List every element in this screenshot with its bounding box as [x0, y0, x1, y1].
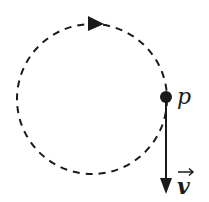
- direction-arrowhead-icon: [88, 16, 104, 31]
- velocity-arrowhead-icon: [160, 178, 172, 194]
- point-p-dot: [160, 91, 172, 103]
- velocity-label: v: [177, 173, 190, 199]
- circular-path: [17, 24, 167, 174]
- point-label: p: [177, 84, 191, 109]
- circular-motion-diagram: p v: [0, 0, 209, 202]
